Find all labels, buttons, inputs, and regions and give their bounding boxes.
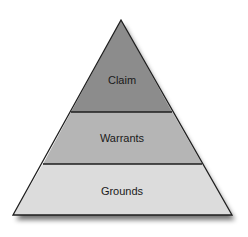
pyramid-svg: Claim Warrants Grounds [0,0,248,237]
label-claim: Claim [108,74,136,86]
label-grounds: Grounds [101,185,144,197]
level-claim [71,20,172,112]
pyramid-diagram: Claim Warrants Grounds [0,0,248,237]
label-warrants: Warrants [100,132,145,144]
